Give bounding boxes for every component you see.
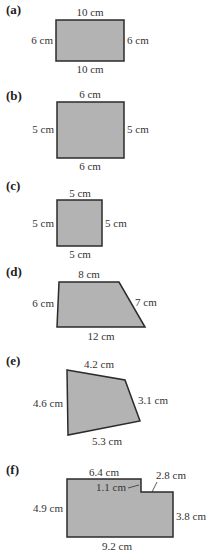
side-step-height-f: 1.1 cm [96, 481, 126, 493]
shapes-figure: (a) 10 cm 10 cm 6 cm 6 cm (b) 6 cm 6 cm … [0, 0, 209, 552]
side-bottom-e: 5.3 cm [92, 435, 122, 447]
part-e: (e) 4.2 cm 3.1 cm 4.6 cm 5.3 cm [6, 353, 168, 447]
side-top-a: 10 cm [76, 6, 104, 18]
part-label-e: (e) [6, 353, 20, 368]
side-left-b: 5 cm [32, 123, 54, 135]
side-top-d: 8 cm [78, 268, 100, 280]
square-c [57, 200, 102, 246]
leader-line-step-width [152, 482, 157, 492]
side-left-d: 6 cm [32, 297, 54, 309]
side-top-b: 6 cm [79, 88, 101, 100]
part-label-f: (f) [6, 462, 19, 477]
side-top-c: 5 cm [69, 187, 91, 199]
side-right-f: 3.8 cm [176, 510, 206, 522]
side-left-f: 4.9 cm [33, 502, 63, 514]
side-bottom-c: 5 cm [69, 248, 91, 260]
side-bottom-f: 9.2 cm [102, 540, 132, 552]
side-top-f: 6.4 cm [89, 466, 119, 478]
side-bottom-a: 10 cm [76, 63, 104, 75]
side-bottom-d: 12 cm [87, 330, 115, 342]
part-b: (b) 6 cm 6 cm 5 cm 5 cm [6, 88, 149, 172]
side-left-c: 5 cm [32, 217, 54, 229]
side-left-a: 6 cm [31, 34, 53, 46]
trapezium-d [57, 282, 145, 327]
rectangle-b [57, 102, 124, 158]
part-label-c: (c) [6, 178, 20, 193]
side-right-b: 5 cm [127, 123, 149, 135]
part-label-d: (d) [6, 264, 22, 279]
side-right-e: 3.1 cm [138, 394, 168, 406]
side-left-e: 4.6 cm [33, 397, 63, 409]
side-right-a: 6 cm [127, 34, 149, 46]
part-f: (f) 6.4 cm 1.1 cm 2.8 cm 4.9 cm 3.8 cm 9… [6, 462, 206, 552]
quadrilateral-e [67, 370, 140, 435]
part-d: (d) 8 cm 6 cm 7 cm 12 cm [6, 264, 157, 342]
side-step-width-f: 2.8 cm [156, 469, 186, 481]
side-bottom-b: 6 cm [79, 160, 101, 172]
part-label-b: (b) [6, 88, 22, 103]
side-slant-d: 7 cm [135, 296, 157, 308]
part-c: (c) 5 cm 5 cm 5 cm 5 cm [6, 178, 127, 260]
side-top-e: 4.2 cm [84, 358, 114, 370]
part-label-a: (a) [6, 2, 21, 17]
part-a: (a) 10 cm 10 cm 6 cm 6 cm [6, 2, 149, 75]
rectangle-a [56, 20, 124, 61]
side-right-c: 5 cm [105, 217, 127, 229]
